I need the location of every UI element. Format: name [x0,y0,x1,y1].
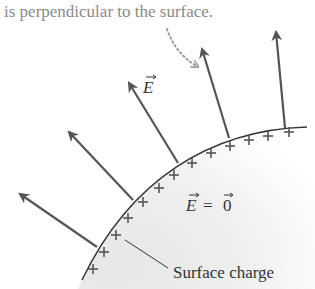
equals-sign: = [203,196,213,215]
diagram-conductor-surface-field: is perpendicular to the surface. E [0,0,315,289]
interior-field-equation: E = 0 [185,193,233,215]
field-arrow [202,49,229,138]
surface-charge-label: Surface charge [173,263,274,282]
field-symbol: E [142,78,154,97]
dotted-pointer-arrow [167,29,197,66]
field-label: E [142,75,156,97]
zero-vector-symbol: 0 [223,196,232,215]
field-arrow [20,194,97,247]
field-arrow [69,132,133,200]
caption-text: is perpendicular to the surface. [4,2,213,21]
field-arrow [276,32,285,128]
field-arrow [129,83,178,163]
interior-field-symbol: E [185,196,197,215]
